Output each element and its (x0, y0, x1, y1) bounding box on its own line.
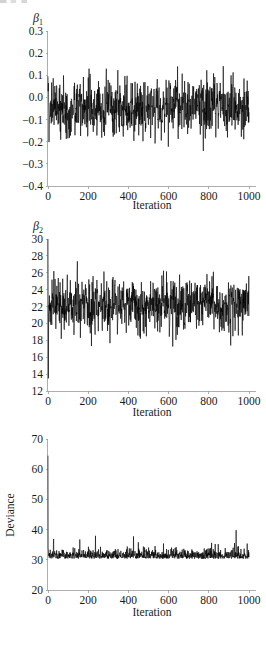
mcmc-trace-figure: 0.30.20.10.0−0.1−0.2−0.3−0.4 02004006008… (0, 0, 266, 645)
beta2-y-ticks: 30282624222018161412 (32, 233, 49, 397)
x-tick-label: 800 (200, 395, 218, 407)
x-tick-label: 200 (80, 594, 98, 606)
y-tick-label: 30 (32, 554, 44, 566)
y-tick-label: 26 (32, 267, 44, 279)
y-tick-label: −0.3 (22, 158, 43, 170)
deviance-x-ticks: 02004006008001000 (45, 590, 261, 606)
y-tick-label: 0.2 (29, 47, 44, 59)
y-tick-label: 70 (32, 433, 44, 445)
beta2-xaxis-title: Iteration (133, 406, 172, 418)
x-tick-label: 1000 (238, 395, 261, 407)
deviance-yaxis-title: Deviance (4, 493, 16, 536)
x-tick-label: 800 (200, 594, 218, 606)
y-tick-label: −0.1 (22, 114, 43, 126)
y-tick-label: 60 (32, 463, 44, 475)
beta2-x-ticks: 02004006008001000 (45, 391, 261, 407)
beta1-xaxis-title: Iteration (133, 199, 172, 211)
trace-panel-deviance: 706050403020 02004006008001000 Deviance … (0, 425, 266, 645)
y-tick-label: 20 (32, 584, 44, 596)
x-tick-label: 600 (160, 594, 178, 606)
y-tick-label: 14 (32, 368, 44, 380)
beta1-y-ticks: 0.30.20.10.0−0.1−0.2−0.3−0.4 (22, 25, 48, 192)
deviance-y-ticks: 706050403020 (32, 433, 49, 596)
trace-panel-beta2: 30282624222018161412 02004006008001000 β… (0, 215, 266, 425)
y-tick-label: 24 (32, 284, 44, 296)
beta2-trace-line (48, 239, 249, 378)
x-tick-label: 800 (200, 190, 218, 202)
x-tick-label: 200 (80, 190, 98, 202)
beta2-series-label: β2 (32, 219, 43, 235)
x-tick-label: 0 (45, 594, 51, 606)
y-tick-label: 12 (32, 385, 44, 397)
y-tick-label: 40 (32, 524, 44, 536)
y-tick-label: 28 (32, 250, 44, 262)
y-tick-label: 20 (32, 317, 44, 329)
deviance-plot: 706050403020 02004006008001000 Deviance … (0, 425, 266, 645)
beta1-series-label: β1 (32, 11, 43, 27)
x-tick-label: 0 (45, 190, 51, 202)
deviance-xaxis-title: Iteration (133, 606, 172, 618)
beta1-trace-line (48, 66, 249, 151)
beta1-plot: 0.30.20.10.0−0.1−0.2−0.3−0.4 02004006008… (0, 0, 266, 215)
x-tick-label: 1000 (238, 190, 261, 202)
y-tick-label: −0.2 (22, 136, 43, 148)
y-tick-label: 22 (32, 301, 44, 313)
trace-panel-beta1: 0.30.20.10.0−0.1−0.2−0.3−0.4 02004006008… (0, 0, 266, 215)
x-tick-label: 400 (120, 594, 138, 606)
x-tick-label: 200 (80, 395, 98, 407)
x-tick-label: 0 (45, 395, 51, 407)
y-tick-label: 0.0 (29, 91, 44, 103)
beta2-plot: 30282624222018161412 02004006008001000 β… (0, 215, 266, 425)
y-tick-label: 50 (32, 493, 44, 505)
y-tick-label: 18 (32, 334, 44, 346)
y-tick-label: 0.1 (29, 69, 44, 81)
deviance-trace-line (48, 456, 249, 559)
x-tick-label: 1000 (238, 594, 261, 606)
y-tick-label: 16 (32, 351, 44, 363)
y-tick-label: −0.4 (22, 180, 43, 192)
